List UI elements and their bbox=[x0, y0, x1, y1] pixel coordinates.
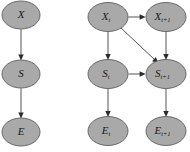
two-slice-temporal-graph: Xt Xt+1 St St+1 Et Et+1 bbox=[88, 3, 186, 146]
edge-s-to-e bbox=[18, 88, 23, 118]
node-xt1[interactable]: Xt+1 bbox=[146, 3, 186, 32]
node-e-label: E bbox=[17, 125, 25, 137]
edge-xt1-to-st1 bbox=[163, 32, 168, 60]
node-et1[interactable]: Et+1 bbox=[146, 117, 186, 146]
edge-st-to-et bbox=[105, 89, 110, 117]
node-st1[interactable]: St+1 bbox=[146, 60, 186, 89]
static-chain-graph: X S E bbox=[2, 1, 40, 146]
edge-st1-to-et1 bbox=[163, 89, 168, 117]
node-x[interactable]: X bbox=[2, 1, 40, 29]
edge-xt-to-xt1 bbox=[128, 14, 145, 19]
edge-xt-to-st bbox=[105, 32, 110, 60]
node-xt[interactable]: Xt bbox=[88, 3, 128, 32]
edge-x-to-s bbox=[18, 29, 23, 60]
node-s[interactable]: S bbox=[2, 60, 40, 88]
node-x-label: X bbox=[17, 8, 26, 20]
node-e[interactable]: E bbox=[2, 118, 40, 146]
node-et[interactable]: Et bbox=[88, 117, 128, 146]
diagram-canvas: X S E bbox=[0, 0, 190, 152]
graphical-model-figure: X S E bbox=[0, 0, 190, 152]
node-s-label: S bbox=[18, 67, 24, 79]
edge-xt-to-st1 bbox=[121, 28, 159, 64]
node-st[interactable]: St bbox=[88, 60, 128, 89]
edge-st-to-st1 bbox=[128, 71, 145, 76]
